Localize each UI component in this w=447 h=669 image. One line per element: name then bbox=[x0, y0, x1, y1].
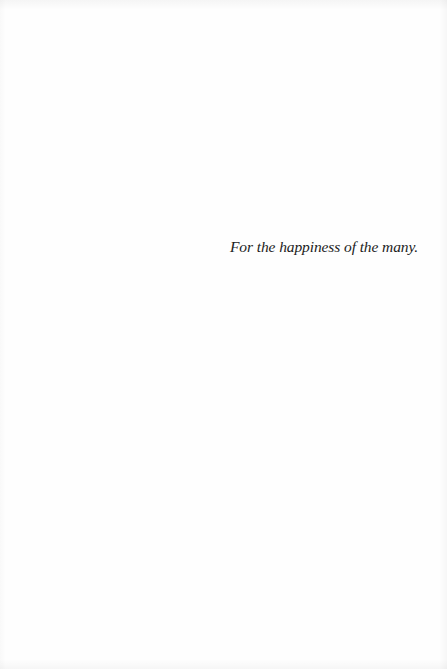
page-edge-shading-bottom bbox=[0, 659, 447, 669]
page-edge-shading-left bbox=[0, 0, 6, 669]
book-page: For the happiness of the many. bbox=[0, 0, 447, 669]
page-edge-shading-top bbox=[0, 0, 447, 10]
page-edge-shading-right bbox=[439, 0, 447, 669]
dedication-text: For the happiness of the many. bbox=[230, 238, 418, 256]
